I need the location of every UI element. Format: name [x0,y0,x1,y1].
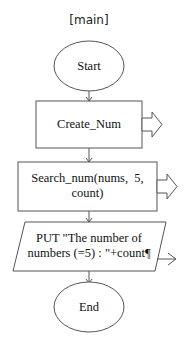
put-text-line2: numbers (=5) : "+count¶ [27,246,150,261]
call-arrow-icon [157,174,177,199]
start-label: Start [54,58,124,74]
put-output-label: PUT "The number of numbers (=5) : "+coun… [18,230,160,262]
create-num-label: Create_Num [36,116,142,132]
flowchart-canvas: [main] [0,0,195,353]
put-text-line1: PUT "The number of [36,231,142,246]
end-text: End [79,300,99,315]
start-text: Start [77,59,101,74]
create-num-text: Create_Num [57,117,121,132]
search-num-text-line1: Search_num(nums, 5, [31,171,143,186]
search-num-label: Search_num(nums, 5, count) [18,170,157,202]
search-num-text-line2: count) [72,186,104,201]
end-label: End [54,299,124,315]
call-arrow-icon [142,112,162,137]
